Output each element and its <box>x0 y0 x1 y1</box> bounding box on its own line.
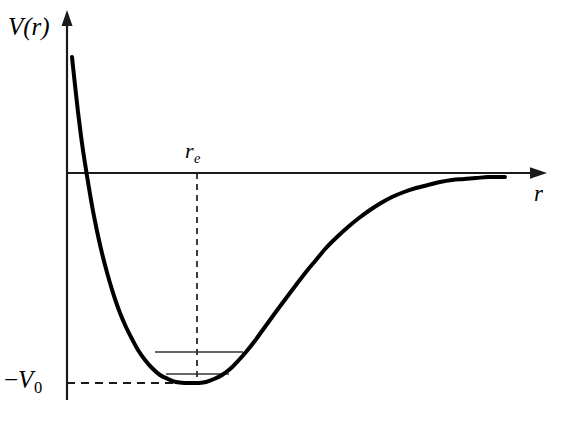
well-depth-symbol: V <box>18 366 33 393</box>
equilibrium-symbol: r <box>185 138 194 163</box>
x-axis-label: r <box>534 182 543 205</box>
x-axis-arrowhead <box>530 167 547 179</box>
potential-energy-figure: V(r) r re −V0 <box>0 0 562 421</box>
y-axis-arrowhead <box>62 10 73 26</box>
y-axis-label: V(r) <box>8 14 50 39</box>
minus-sign: − <box>4 366 18 393</box>
well-depth-subscript: 0 <box>33 378 42 397</box>
equilibrium-distance-label: re <box>185 140 201 165</box>
equilibrium-subscript: e <box>194 150 201 166</box>
potential-energy-curve <box>72 57 505 383</box>
well-depth-label: −V0 <box>4 367 42 397</box>
potential-curve-plot <box>0 0 562 421</box>
